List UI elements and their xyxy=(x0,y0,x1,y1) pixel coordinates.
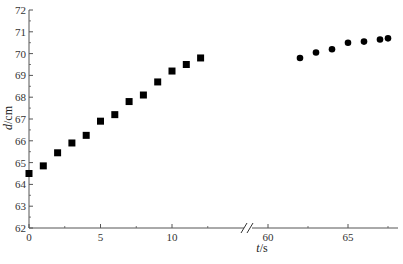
square-marker xyxy=(111,111,118,118)
circle-marker xyxy=(385,35,392,42)
y-tick-label: 66 xyxy=(15,135,27,147)
data-points xyxy=(26,35,392,177)
y-tick-label: 72 xyxy=(15,4,26,16)
circle-marker xyxy=(313,49,320,56)
y-tick-label: 68 xyxy=(15,91,27,103)
y-tick-label: 71 xyxy=(15,26,26,38)
circle-marker xyxy=(329,46,336,53)
circle-marker xyxy=(377,36,384,43)
square-marker xyxy=(169,68,176,75)
square-marker xyxy=(154,78,161,85)
y-tick-label: 69 xyxy=(15,69,27,81)
x-tick-label: 0 xyxy=(26,231,32,243)
square-marker xyxy=(68,139,75,146)
square-marker xyxy=(40,162,47,169)
square-marker xyxy=(83,132,90,139)
axes: 626364656667686970717205106065 xyxy=(15,4,398,243)
square-marker xyxy=(97,118,104,125)
square-marker xyxy=(126,98,133,105)
circle-marker xyxy=(345,39,352,46)
y-tick-label: 63 xyxy=(15,200,27,212)
y-tick-label: 64 xyxy=(15,178,27,190)
x-tick-label: 65 xyxy=(343,231,355,243)
circle-marker xyxy=(361,38,368,45)
x-axis-label: t/s xyxy=(256,241,268,255)
x-tick-label: 10 xyxy=(167,231,179,243)
y-tick-label: 65 xyxy=(15,157,27,169)
scatter-chart: 626364656667686970717205106065 t/s d/cm xyxy=(0,0,403,264)
y-axis-label: d/cm xyxy=(1,105,15,130)
square-marker xyxy=(26,170,33,177)
circle-marker xyxy=(297,55,304,62)
y-tick-label: 62 xyxy=(15,222,26,234)
y-tick-label: 70 xyxy=(15,48,27,60)
square-marker xyxy=(197,54,204,61)
square-marker xyxy=(54,149,61,156)
square-marker xyxy=(183,61,190,68)
square-marker xyxy=(140,92,147,99)
y-tick-label: 67 xyxy=(15,113,27,125)
x-tick-label: 5 xyxy=(98,231,104,243)
